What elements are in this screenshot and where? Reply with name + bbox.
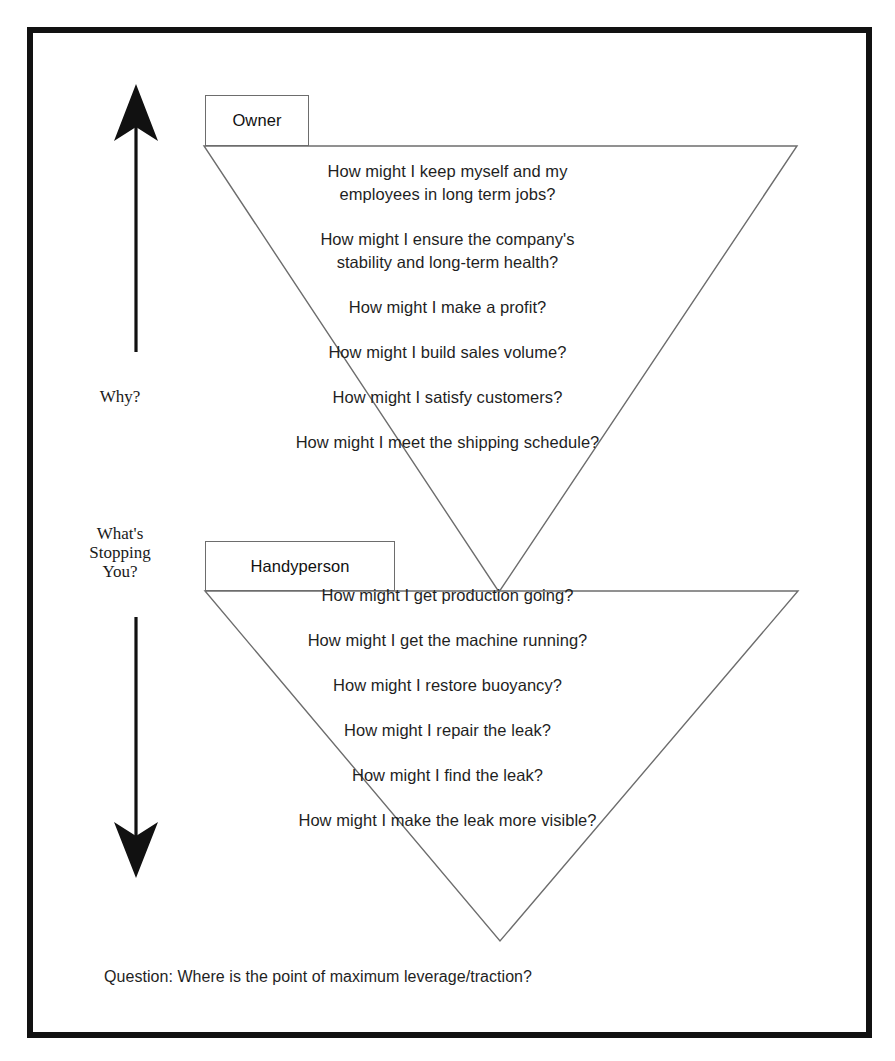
role-box-handyperson-label: Handyperson [250, 557, 349, 576]
footer-question: Question: Where is the point of maximum … [104, 968, 532, 986]
lower-question-line: How might I restore buoyancy? [0, 674, 895, 697]
upper-question-line: How might I build sales volume? [0, 341, 895, 364]
upper-question-line: How might I ensure the company's [0, 228, 895, 251]
upper-question-line: How might I keep myself and my [0, 160, 895, 183]
lower-question-line: How might I get production going? [0, 584, 895, 607]
lower-question-line: How might I make the leak more visible? [0, 809, 895, 832]
upper-question-line: How might I satisfy customers? [0, 386, 895, 409]
role-box-owner[interactable]: Owner [205, 95, 309, 146]
lower-question-line: How might I get the machine running? [0, 629, 895, 652]
axis-label-whats-stopping-you: What's Stopping You? [70, 524, 170, 581]
upper-question-line: How might I make a profit? [0, 296, 895, 319]
upper-question-line: stability and long-term health? [0, 251, 895, 274]
role-box-owner-label: Owner [232, 111, 281, 130]
lower-question-line: How might I repair the leak? [0, 719, 895, 742]
lower-question-line: How might I find the leak? [0, 764, 895, 787]
upper-question-line: employees in long term jobs? [0, 183, 895, 206]
upper-question-line: How might I meet the shipping schedule? [0, 431, 895, 454]
